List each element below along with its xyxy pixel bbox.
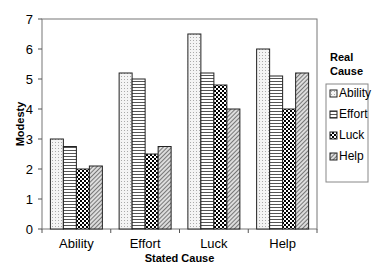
x-tick-label: Ability [59, 236, 94, 251]
bar-ability-effort [63, 147, 76, 230]
y-tick-label: 0 [26, 222, 33, 237]
bar-luck-help [227, 109, 240, 229]
y-tick-label: 4 [26, 102, 33, 117]
bar-help-help [296, 73, 309, 229]
legend-swatch [330, 132, 337, 139]
bar-chart: 01234567ModestyAbilityEffortLuckHelpStat… [0, 0, 383, 276]
legend-label: Ability [339, 86, 371, 100]
legend-swatch [330, 153, 337, 160]
y-tick-label: 2 [26, 162, 33, 177]
bar-effort-effort [132, 79, 145, 229]
legend-label: Effort [339, 107, 368, 121]
bar-luck-effort [201, 73, 214, 229]
bar-help-luck [283, 109, 296, 229]
y-tick-label: 7 [26, 12, 33, 27]
bar-help-effort [270, 76, 283, 229]
y-tick-label: 1 [26, 192, 33, 207]
x-tick-label: Luck [200, 236, 228, 251]
legend-label: Help [339, 149, 364, 163]
x-tick-label: Effort [130, 236, 161, 251]
legend-label: Luck [339, 128, 365, 142]
x-tick-label: Help [269, 236, 296, 251]
bar-ability-ability [50, 139, 63, 229]
y-tick-label: 5 [26, 72, 33, 87]
legend-swatch [330, 111, 337, 118]
bar-luck-luck [214, 85, 227, 229]
bar-ability-help [89, 166, 102, 229]
y-axis-label: Modesty [14, 101, 26, 147]
bar-effort-luck [145, 154, 158, 229]
bar-effort-ability [119, 73, 132, 229]
bar-ability-luck [76, 169, 89, 229]
y-tick-label: 6 [26, 42, 33, 57]
legend-title: Real [330, 51, 353, 63]
bar-help-ability [257, 49, 270, 229]
legend-title: Cause [330, 65, 363, 77]
y-tick-label: 3 [26, 132, 33, 147]
bar-luck-ability [188, 34, 201, 229]
x-axis-label: Stated Cause [145, 252, 215, 264]
legend-swatch [330, 90, 337, 97]
bar-effort-help [158, 147, 171, 230]
